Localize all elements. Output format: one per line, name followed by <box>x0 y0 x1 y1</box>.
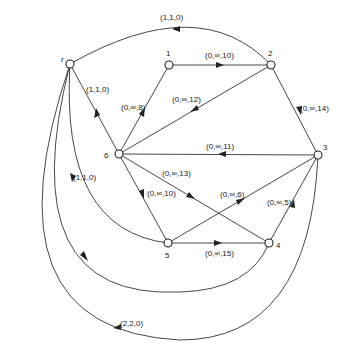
edge-label-3-r: (2,2,0) <box>120 319 143 328</box>
node-label-3: 3 <box>323 143 328 152</box>
node-3 <box>314 151 322 159</box>
edge-label-1-2: (0,∞,10) <box>205 51 234 60</box>
arrow-icon <box>236 198 245 205</box>
node-label-2: 2 <box>268 49 273 58</box>
edges <box>42 26 318 340</box>
edge-label-6-r: (1,1,0) <box>86 85 109 94</box>
arrow-icon <box>214 240 222 246</box>
node-1 <box>165 61 173 69</box>
network-diagram: (1,1,0) (0,∞,10) (0,∞,14) (1,1,0) (0,∞,8… <box>0 0 339 352</box>
edge-label-5-4: (0,∞,15) <box>205 249 234 258</box>
edge-label-3-6: (0,∞,11) <box>206 142 235 151</box>
arrow-icon <box>190 105 199 112</box>
edge-label-4-3: (0,∞,5) <box>267 198 292 207</box>
arrow-icon <box>139 189 144 199</box>
edge-label-2-6: (0,∞,12) <box>172 95 201 104</box>
node-label-5: 5 <box>165 251 170 260</box>
edge-2-r <box>70 27 271 65</box>
edge-6-r <box>70 64 119 154</box>
node-label-4: 4 <box>276 241 281 250</box>
node-label-r: r <box>61 55 64 64</box>
node-label-6: 6 <box>104 151 109 160</box>
node-r <box>66 60 74 68</box>
arrow-icon <box>218 151 226 157</box>
edge-label-6-5: (0,∞,10) <box>147 189 176 198</box>
arrow-icon <box>186 192 195 199</box>
node-4 <box>265 239 273 247</box>
node-label-1: 1 <box>166 49 171 58</box>
edge-label-2-r: (1,1,0) <box>160 13 183 22</box>
node-6 <box>115 150 123 158</box>
node-5 <box>164 239 172 247</box>
edge-label-6-4: (0,∞,13) <box>162 169 191 178</box>
edge-label-5-r: (1,1,0) <box>73 173 96 182</box>
arrow-icon <box>216 62 224 68</box>
arrow-icon <box>172 26 180 32</box>
node-2 <box>267 61 275 69</box>
edge-label-5-3: (0,∞,6) <box>220 190 245 199</box>
edge-label-2-3: (0,∞,14) <box>300 104 329 113</box>
edge-label-6-1: (0,∞,8) <box>121 103 146 112</box>
